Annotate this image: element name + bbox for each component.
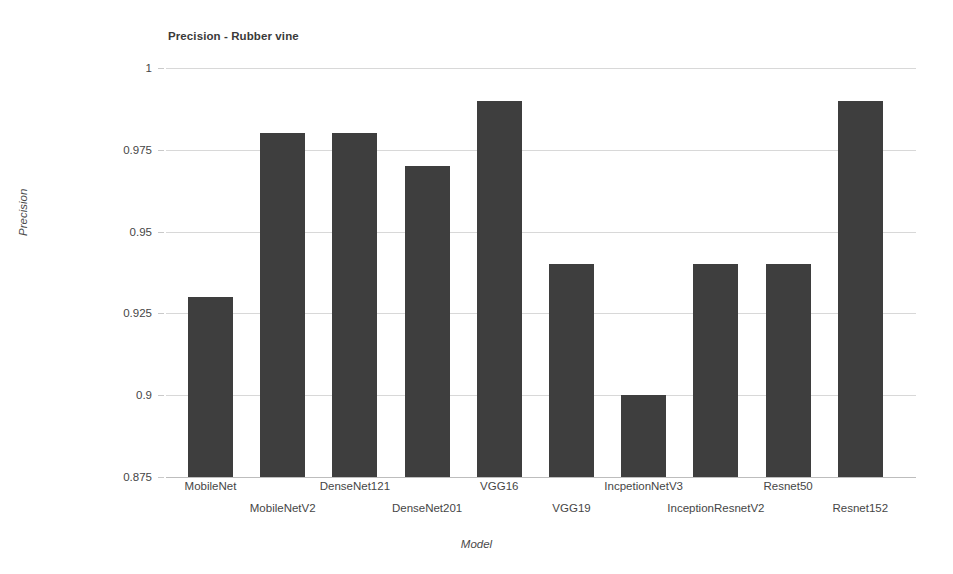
y-axis-tick-mark bbox=[158, 395, 164, 396]
x-axis-tick-label: DenseNet201 bbox=[392, 502, 462, 514]
y-axis-tick-mark bbox=[158, 68, 164, 69]
bar bbox=[838, 101, 883, 477]
x-axis-title: Model bbox=[0, 538, 953, 550]
bar bbox=[621, 395, 666, 477]
bar bbox=[477, 101, 522, 477]
gridline bbox=[166, 68, 916, 69]
y-axis-tick-mark bbox=[158, 232, 164, 233]
bar bbox=[693, 264, 738, 477]
y-axis-title: Precision bbox=[17, 189, 29, 236]
y-axis-tick-label: 1 bbox=[146, 62, 152, 74]
x-axis-tick-label: MobileNetV2 bbox=[250, 502, 316, 514]
chart-title: Precision - Rubber vine bbox=[168, 30, 299, 42]
y-axis-tick-label: 0.975 bbox=[123, 144, 152, 156]
x-axis-tick-label: Resnet152 bbox=[832, 502, 888, 514]
x-axis-tick-labels: MobileNetMobileNetV2DenseNet121DenseNet2… bbox=[0, 478, 953, 528]
precision-bar-chart: Precision - Rubber vine 0.8750.90.9250.9… bbox=[0, 0, 953, 574]
bar bbox=[260, 133, 305, 477]
bar bbox=[405, 166, 450, 477]
x-axis-tick-label: VGG19 bbox=[552, 502, 590, 514]
x-axis-tick-label: IncpetionNetV3 bbox=[604, 480, 683, 492]
y-axis-tick-label: 0.95 bbox=[130, 226, 152, 238]
bar bbox=[332, 133, 377, 477]
y-axis-tick-mark bbox=[158, 313, 164, 314]
bar bbox=[188, 297, 233, 477]
x-axis-tick-label: InceptionResnetV2 bbox=[667, 502, 764, 514]
x-axis-tick-label: VGG16 bbox=[480, 480, 518, 492]
plot-area bbox=[166, 68, 916, 477]
x-axis-tick-label: DenseNet121 bbox=[320, 480, 390, 492]
x-axis-tick-label: MobileNet bbox=[185, 480, 237, 492]
y-axis-tick-label: 0.925 bbox=[123, 307, 152, 319]
y-axis-tick-mark bbox=[158, 150, 164, 151]
bar bbox=[766, 264, 811, 477]
x-axis-tick-label: Resnet50 bbox=[763, 480, 812, 492]
y-axis-tick-labels: 0.8750.90.9250.950.9751 bbox=[100, 68, 152, 477]
bar bbox=[549, 264, 594, 477]
y-axis-tick-label: 0.9 bbox=[136, 389, 152, 401]
